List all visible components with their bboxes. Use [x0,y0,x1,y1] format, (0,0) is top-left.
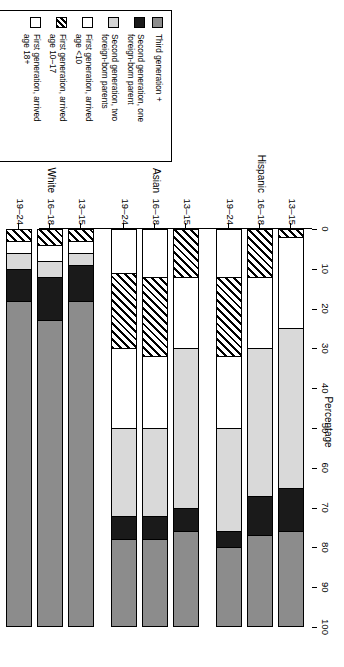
chart-bar-segment [68,229,94,241]
axis-tick-label: 90 [320,582,331,593]
axis-tick-label: 40 [320,383,331,394]
chart-bar [68,229,94,627]
chart-bar-segment [173,277,199,349]
chart-bar-segment [68,253,94,265]
chart-bar-segment [173,229,199,277]
chart-bar-segment [37,261,63,277]
chart-bar-segment [6,241,32,253]
legend-label: Second generation, one foreign-born pare… [126,34,146,122]
axis-tick [312,547,317,548]
axis-tick [312,309,317,310]
chart-bar-segment [6,301,32,627]
chart-bar-segment [216,428,242,531]
chart-bar-segment [216,356,242,428]
axis-tick [312,269,317,270]
chart-bar-segment [6,253,32,269]
legend-label: Second generation, two foreign-born pare… [100,34,120,121]
axis-tick [312,229,317,230]
legend-item: First generation, arrived age <10 [74,17,94,155]
chart-bar-segment [278,488,304,532]
chart-bar-segment [216,277,242,357]
chart-bar-segment [216,531,242,547]
chart-bar-segment [278,531,304,627]
chart-bar-segment [142,539,168,627]
group-label: Hispanic [256,153,267,193]
chart-bar [6,229,32,627]
chart-bar [173,229,199,627]
category-label-age: 16–18 [256,195,267,225]
chart-bar-segment [111,539,137,627]
chart-bar [142,229,168,627]
category-label-age: 19–24 [15,195,26,225]
chart-bar-segment [247,229,273,277]
category-label-age: 16–18 [46,195,57,225]
chart-bar [37,229,63,627]
chart-bar-segment [278,237,304,329]
legend-swatch-first-generation-10-17-icon [56,17,67,28]
chart-bar-segment [111,428,137,516]
chart-bar-segment [37,320,63,626]
legend-label: First generation, arrived age 10–17 [48,34,68,122]
category-label-age: 19–24 [120,195,131,225]
chart-bar-segment [173,531,199,627]
group-label: White [46,153,57,193]
chart-bar-segment [6,229,32,241]
legend-item: First generation, arrived age 10–17 [48,17,68,155]
chart-bar [247,229,273,627]
category-label-age: 13–15 [77,195,88,225]
axis-tick-label: 0 [320,226,331,231]
chart-bar-segment [142,428,168,516]
legend-item: Third generation + [152,17,164,155]
chart-panel: 010203040506070809010013–1516–1819–2413–… [39,228,312,626]
legend: Third generation + Second generation, on… [0,10,172,162]
axis-tick-label: 100 [320,619,331,635]
chart-bar-segment [68,301,94,627]
chart-bar-segment [6,269,32,301]
axis-tick-label: 80 [320,542,331,553]
legend-swatch-second-generation-one-icon [134,17,145,28]
category-label-age: 13–15 [182,195,193,225]
chart-bar [216,229,242,627]
chart-bar-segment [142,229,168,277]
axis-tick [312,348,317,349]
chart-plot-area: Percentage 010203040506070809010013–1516… [14,196,334,648]
category-label-age: 16–18 [151,195,162,225]
chart-bar-segment [68,265,94,301]
chart-bar-segment [247,535,273,627]
axis-tick-label: 30 [320,343,331,354]
legend-swatch-third-generation-icon [152,17,163,28]
axis-tick-label: 50 [320,423,331,434]
chart-bar-segment [37,229,63,245]
legend-item: Second generation, two foreign-born pare… [100,17,120,155]
axis-tick-label: 10 [320,264,331,275]
axis-tick [312,468,317,469]
legend-label: Third generation + [154,34,164,102]
chart-bar-segment [37,277,63,321]
legend-item: First generation, arrived age 18+ [22,17,42,155]
legend-item: Second generation, one foreign-born pare… [126,17,146,155]
legend-swatch-first-generation-18plus-icon [30,17,41,28]
legend-swatch-second-generation-two-icon [108,17,119,28]
axis-tick-label: 20 [320,303,331,314]
chart-bar-segment [111,516,137,540]
chart-bar-segment [111,229,137,273]
chart-bar-segment [216,547,242,627]
chart-bar-segment [142,516,168,540]
chart-bar-segment [247,348,273,495]
chart-bar-segment [278,328,304,487]
legend-label: First generation, arrived age 18+ [22,34,42,122]
axis-tick-label: 70 [320,502,331,513]
axis-tick [312,388,317,389]
axis-tick [312,627,317,628]
chart-bar-segment [247,496,273,536]
chart-bar-segment [111,348,137,428]
chart-bar-segment [111,273,137,349]
axis-tick [312,508,317,509]
chart-bar-segment [247,277,273,349]
category-label-age: 19–24 [225,195,236,225]
chart-bar-segment [142,356,168,428]
category-label-age: 13–15 [287,195,298,225]
chart-bar-segment [142,277,168,357]
legend-label: First generation, arrived age <10 [74,34,94,122]
axis-tick [312,587,317,588]
